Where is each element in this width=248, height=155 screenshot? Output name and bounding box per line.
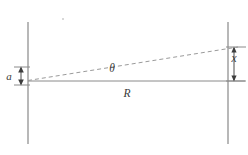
label-aperture-a: a bbox=[6, 70, 12, 82]
label-baseline-R: R bbox=[122, 87, 130, 99]
scan-speck bbox=[62, 18, 64, 20]
geometry-diagram-svg: Small-angle geometry diagram Narrow tria… bbox=[0, 0, 248, 155]
label-displacement-x: x bbox=[230, 52, 237, 64]
dashed-ray-line bbox=[28, 47, 238, 81]
label-angle-theta: θ bbox=[109, 62, 115, 74]
figure-canvas: Small-angle geometry diagram Narrow tria… bbox=[0, 0, 248, 155]
